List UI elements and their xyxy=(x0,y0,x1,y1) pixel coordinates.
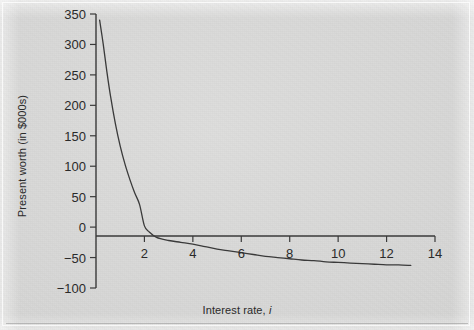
y-axis-tick-label: 0 xyxy=(20,220,86,235)
y-axis-tick-label: 300 xyxy=(20,37,86,52)
x-axis-tick-label: 6 xyxy=(238,246,245,261)
figure-screenshot: −100−50050100150200250300350 2468101214 … xyxy=(0,0,474,330)
y-axis-ticks xyxy=(90,14,96,288)
y-axis-tick-label: 250 xyxy=(20,67,86,82)
y-axis-tick-label: 150 xyxy=(20,128,86,143)
y-axis-tick-label: −100 xyxy=(20,281,86,296)
chart-plot-area: −100−50050100150200250300350 2468101214 … xyxy=(0,0,474,330)
x-axis-tick-label: 8 xyxy=(286,246,293,261)
x-axis-title-symbol: i xyxy=(269,304,272,316)
y-axis-tick-label: −50 xyxy=(20,250,86,265)
x-axis-ticks xyxy=(144,236,435,242)
x-axis-tick-label: 12 xyxy=(379,246,393,261)
y-axis-tick-label: 50 xyxy=(20,189,86,204)
y-axis-tick-label: 350 xyxy=(20,7,86,22)
y-axis-tick-label: 200 xyxy=(20,98,86,113)
x-axis-tick-label: 4 xyxy=(189,246,196,261)
data-series-group xyxy=(100,20,411,265)
x-axis-tick-label: 14 xyxy=(428,246,442,261)
x-axis-tick-label: 10 xyxy=(331,246,345,261)
y-axis-title: Present worth (in $000s) xyxy=(16,76,28,236)
x-axis-title-text: Interest rate, xyxy=(203,304,269,316)
y-axis-tick-label: 100 xyxy=(20,159,86,174)
x-axis-tick-label: 2 xyxy=(141,246,148,261)
x-axis-title: Interest rate, i xyxy=(0,304,474,316)
data-series-line xyxy=(100,20,411,265)
